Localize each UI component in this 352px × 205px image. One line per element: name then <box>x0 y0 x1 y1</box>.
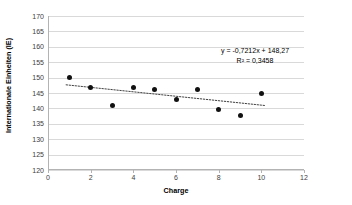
x-axis-tick-mark <box>48 170 49 173</box>
x-axis-tick-mark <box>261 170 262 173</box>
y-axis-title: Internationale Einheiten (IE) <box>0 0 18 170</box>
x-axis-tick-mark <box>176 170 177 173</box>
trendline-equation-annotation: y = -0,7212x + 148,27 R² = 0,3458 <box>196 46 314 65</box>
data-point <box>131 85 136 90</box>
y-axis-tick-label: 120 <box>20 167 44 174</box>
data-point <box>67 75 72 80</box>
y-axis-tick-label: 145 <box>20 90 44 97</box>
y-axis-tick-label: 170 <box>20 13 44 20</box>
trendline-equation-text: y = -0,7212x + 148,27 <box>196 46 314 56</box>
y-axis-tick-label: 140 <box>20 105 44 112</box>
data-point <box>238 113 243 118</box>
y-axis-tick-labels: 120125130135140145150155160165170 <box>18 16 44 170</box>
trendline-segment <box>66 85 265 106</box>
x-axis-tick-label: 6 <box>164 174 188 181</box>
x-axis-tick-label: 10 <box>249 174 273 181</box>
y-axis-tick-label: 135 <box>20 120 44 127</box>
x-axis-tick-mark <box>133 170 134 173</box>
x-axis-tick-labels: 024681012 <box>48 174 304 186</box>
x-axis-tick-label: 0 <box>36 174 60 181</box>
data-point <box>216 107 221 112</box>
y-axis-tick-label: 130 <box>20 136 44 143</box>
x-axis-tick-label: 12 <box>292 174 316 181</box>
x-axis-title: Charge <box>48 186 304 195</box>
y-axis-tick-label: 155 <box>20 59 44 66</box>
x-axis-tick-mark <box>91 170 92 173</box>
x-axis-tick-mark <box>304 170 305 173</box>
trendline <box>48 16 304 170</box>
x-axis-tick-label: 2 <box>79 174 103 181</box>
trendline-r2-text: R² = 0,3458 <box>196 56 314 66</box>
data-point <box>174 97 179 102</box>
y-axis-tick-label: 160 <box>20 43 44 50</box>
scatter-chart: Internationale Einheiten (IE) 1201251301… <box>0 0 352 205</box>
x-axis-tick-mark <box>219 170 220 173</box>
x-axis-tick-label: 8 <box>207 174 231 181</box>
data-point <box>259 91 264 96</box>
y-axis-title-label: Internationale Einheiten (IE) <box>5 37 14 132</box>
x-axis-tick-label: 4 <box>121 174 145 181</box>
y-axis-tick-label: 165 <box>20 28 44 35</box>
y-axis-tick-label: 150 <box>20 74 44 81</box>
plot-area <box>48 16 304 170</box>
y-axis-tick-label: 125 <box>20 151 44 158</box>
